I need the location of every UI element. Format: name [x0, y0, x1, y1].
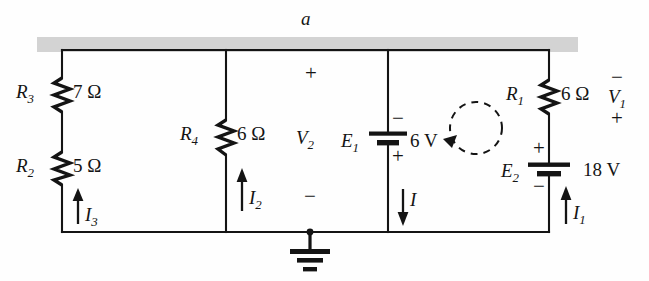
resistor-r1-symbol: [541, 80, 557, 114]
source-e2-ref: E2: [501, 161, 519, 185]
current-arrow-i2: [237, 168, 248, 211]
current-arrow-i1: [561, 186, 572, 224]
current-i1-label: I1: [573, 203, 586, 227]
v1-plus-sign: +: [611, 108, 623, 129]
e1-plus-sign: +: [392, 146, 404, 167]
e1-minus-sign: −: [392, 108, 404, 129]
resistor-r1-ref: R1: [506, 84, 524, 108]
v2-label: V2: [296, 128, 314, 152]
source-e1-value: 6 V: [410, 131, 438, 150]
current-arrow-i: [398, 189, 409, 226]
ground-symbol-graphic: [290, 229, 330, 272]
current-i3-label: I3: [85, 205, 98, 229]
v1-minus-sign: −: [611, 67, 623, 88]
resistor-r3-ref: R3: [16, 82, 34, 106]
resistor-r2-symbol: [54, 152, 70, 185]
resistor-r4-ref: R4: [180, 124, 198, 148]
source-e2-value: 18 V: [583, 160, 620, 179]
circuit-schematic-graphic: [0, 0, 649, 281]
mesh-loop-arrow-graphic: [443, 102, 502, 154]
resistor-r3-symbol: [54, 78, 70, 112]
circuit-diagram-canvas: a R3 7 Ω R2 5 Ω I3 R4 6 Ω I2 + V2 − E1 6…: [0, 0, 649, 281]
current-arrow-i3: [73, 188, 84, 224]
v2-plus-sign: +: [305, 63, 317, 84]
resistor-r4-symbol: [218, 120, 234, 155]
node-a-label: a: [301, 9, 311, 28]
resistor-r3-value: 7 Ω: [73, 82, 101, 101]
source-e1-ref: E1: [341, 131, 359, 155]
resistor-r4-value: 6 Ω: [237, 124, 265, 143]
current-i2-label: I2: [249, 188, 262, 212]
resistor-r1-value: 6 Ω: [561, 84, 589, 103]
resistor-r2-ref: R2: [16, 156, 34, 180]
resistor-r2-value: 5 Ω: [73, 156, 101, 175]
current-i-label: I: [410, 190, 416, 209]
v2-minus-sign: −: [304, 186, 316, 207]
e2-plus-sign: +: [533, 138, 545, 159]
e2-minus-sign: −: [533, 176, 545, 197]
